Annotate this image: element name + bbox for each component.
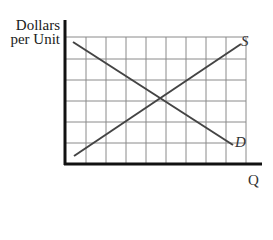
supply-curve	[74, 44, 241, 156]
demand-label: D	[235, 134, 246, 151]
demand-curve	[73, 42, 233, 145]
x-axis-label: Q	[248, 172, 259, 189]
y-axis-label-line2: per Unit	[10, 31, 60, 48]
supply-label: S	[241, 33, 249, 50]
